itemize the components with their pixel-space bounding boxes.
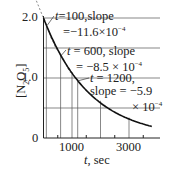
y-label-open: [N — [14, 85, 28, 98]
annotation-t600: t = 600, slope = −8.5 × 10−4 — [67, 45, 142, 74]
y-label-close: ] — [14, 64, 28, 68]
y-tick-2: 2.0 — [22, 10, 38, 25]
x-label-unit: , sec — [87, 153, 109, 167]
annotation-t1200: t = 1200, slope = −5.9 × 10−4 — [90, 72, 162, 114]
y-label-sub5: 5 — [22, 68, 31, 72]
x-axis-label: t, sec — [84, 153, 110, 168]
ann1-line2: =−11.6×10 — [63, 25, 118, 39]
y-label-O: O — [14, 72, 28, 81]
x-tick-3000: 3000 — [116, 140, 141, 155]
y-axis-label: [N2O5] — [14, 64, 31, 98]
ann2-line1: = 600, slope — [70, 44, 135, 58]
y-tick-0: 0 — [32, 131, 38, 146]
ann2-exp: −4 — [135, 60, 142, 68]
ann1-exp: −4 — [118, 25, 125, 33]
x-tick-1000: 1000 — [59, 140, 84, 155]
ann3-line3: × 10 — [132, 100, 155, 114]
y-label-sub2: 2 — [22, 81, 31, 85]
ann1-line1: =100,slope — [58, 9, 113, 23]
ann3-exp: −4 — [155, 100, 162, 108]
ann3-line2: slope = −5.9 — [90, 84, 152, 98]
annotation-t100: t=100,slope =−11.6×10−4 — [55, 10, 126, 39]
ann3-line1: = 1200, — [93, 71, 134, 85]
